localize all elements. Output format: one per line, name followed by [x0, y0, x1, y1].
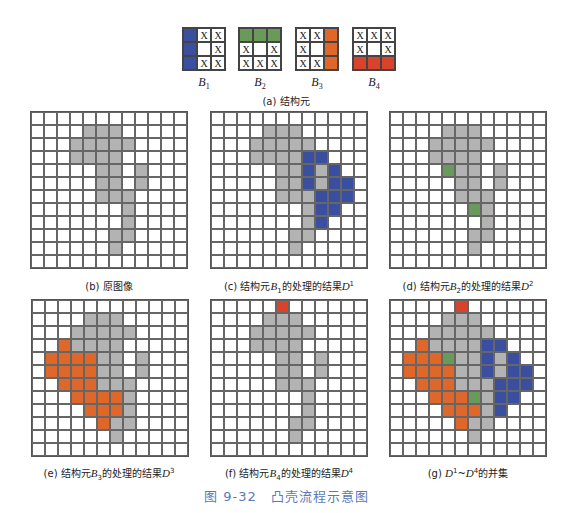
- b3-cell: [58, 365, 71, 378]
- empty-cell: [44, 112, 57, 125]
- object-cell: [455, 326, 468, 339]
- empty-cell: [390, 190, 403, 203]
- empty-cell: [250, 229, 263, 242]
- empty-cell: [211, 326, 224, 339]
- empty-cell: [84, 443, 97, 456]
- empty-cell: [416, 151, 429, 164]
- object-cell: [455, 365, 468, 378]
- empty-cell: [494, 125, 507, 138]
- empty-cell: [211, 138, 224, 151]
- b3-cell: [442, 378, 455, 391]
- empty-cell: [315, 229, 328, 242]
- empty-cell: [83, 242, 96, 255]
- se-filled-cell: [353, 56, 367, 70]
- empty-cell: [315, 313, 328, 326]
- object-cell: [468, 177, 481, 190]
- object-cell: [289, 125, 302, 138]
- empty-cell: [403, 151, 416, 164]
- empty-cell: [341, 151, 354, 164]
- empty-cell: [162, 430, 175, 443]
- empty-cell: [520, 326, 533, 339]
- empty-cell: [341, 443, 354, 456]
- empty-cell: [520, 112, 533, 125]
- object-cell: [135, 177, 148, 190]
- empty-cell: [237, 443, 250, 456]
- empty-cell: [533, 352, 546, 365]
- empty-cell: [354, 242, 367, 255]
- empty-cell: [44, 177, 57, 190]
- empty-cell: [224, 151, 237, 164]
- empty-cell: [83, 203, 96, 216]
- b1-cell: [481, 339, 494, 352]
- empty-cell: [174, 164, 187, 177]
- empty-cell: [211, 229, 224, 242]
- empty-cell: [97, 430, 110, 443]
- object-cell: [97, 326, 110, 339]
- se-dontcare-cell: X: [211, 28, 225, 42]
- object-cell: [468, 125, 481, 138]
- structuring-element-b2: XXXXX: [238, 27, 282, 71]
- empty-cell: [57, 138, 70, 151]
- se-filled-cell: [183, 42, 197, 56]
- empty-cell: [341, 417, 354, 430]
- empty-cell: [416, 391, 429, 404]
- empty-cell: [520, 300, 533, 313]
- empty-cell: [263, 229, 276, 242]
- object-cell: [123, 326, 136, 339]
- b3-cell: [110, 391, 123, 404]
- b3-cell: [429, 365, 442, 378]
- empty-cell: [31, 125, 44, 138]
- empty-cell: [211, 391, 224, 404]
- empty-cell: [224, 339, 237, 352]
- empty-cell: [148, 138, 161, 151]
- empty-cell: [276, 112, 289, 125]
- empty-cell: [162, 417, 175, 430]
- empty-cell: [57, 112, 70, 125]
- empty-cell: [354, 112, 367, 125]
- empty-cell: [70, 255, 83, 268]
- b3-cell: [442, 365, 455, 378]
- object-cell: [110, 339, 123, 352]
- empty-cell: [429, 313, 442, 326]
- empty-cell: [71, 300, 84, 313]
- empty-cell: [276, 391, 289, 404]
- empty-cell: [341, 326, 354, 339]
- b3-cell: [455, 404, 468, 417]
- empty-cell: [224, 164, 237, 177]
- object-cell: [429, 138, 442, 151]
- empty-cell: [45, 443, 58, 456]
- object-cell: [122, 216, 135, 229]
- empty-cell: [83, 164, 96, 177]
- empty-cell: [520, 138, 533, 151]
- empty-cell: [403, 190, 416, 203]
- empty-cell: [211, 300, 224, 313]
- empty-cell: [122, 125, 135, 138]
- b3-cell: [58, 339, 71, 352]
- empty-cell: [135, 125, 148, 138]
- empty-cell: [403, 177, 416, 190]
- b3-cell: [468, 404, 481, 417]
- empty-cell: [123, 300, 136, 313]
- empty-cell: [135, 255, 148, 268]
- empty-cell: [224, 190, 237, 203]
- empty-cell: [263, 365, 276, 378]
- empty-cell: [276, 404, 289, 417]
- empty-cell: [224, 326, 237, 339]
- empty-cell: [135, 242, 148, 255]
- object-cell: [276, 365, 289, 378]
- empty-cell: [263, 242, 276, 255]
- empty-cell: [403, 125, 416, 138]
- b1-cell: [481, 352, 494, 365]
- object-cell: [481, 391, 494, 404]
- b3-cell: [45, 365, 58, 378]
- se-filled-cell: [367, 56, 381, 70]
- empty-cell: [122, 112, 135, 125]
- empty-cell: [520, 443, 533, 456]
- object-cell: [122, 138, 135, 151]
- empty-cell: [148, 164, 161, 177]
- empty-cell: [162, 300, 175, 313]
- object-cell: [455, 138, 468, 151]
- object-cell: [122, 190, 135, 203]
- b1-cell: [507, 378, 520, 391]
- empty-cell: [237, 151, 250, 164]
